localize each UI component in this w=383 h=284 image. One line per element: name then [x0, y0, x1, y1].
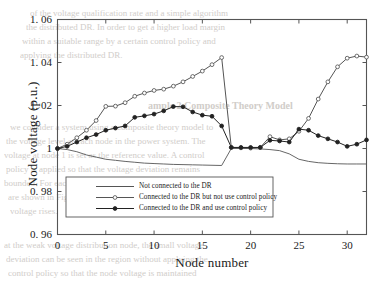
legend-label-2: Connected to the DR and use control poli… — [139, 204, 267, 212]
data-point — [278, 139, 282, 143]
data-point — [104, 104, 108, 108]
y-tick-label: 1. 04 — [8, 56, 52, 68]
data-point — [143, 114, 147, 118]
data-point — [258, 146, 262, 150]
x-tick-label: 10 — [134, 239, 174, 251]
data-point — [355, 142, 359, 146]
x-tick-label: 30 — [327, 239, 367, 251]
data-point — [75, 136, 79, 140]
data-point — [133, 115, 137, 119]
data-point — [220, 124, 224, 128]
data-point — [239, 146, 243, 150]
data-point — [307, 128, 311, 132]
data-point — [336, 140, 340, 144]
data-point — [200, 69, 204, 73]
data-point — [287, 140, 291, 144]
data-point — [365, 55, 369, 59]
data-point — [114, 126, 118, 130]
data-point — [65, 144, 69, 148]
data-point — [345, 56, 349, 60]
data-point — [143, 91, 147, 95]
data-point — [326, 80, 330, 84]
data-point — [345, 144, 349, 148]
data-point — [268, 138, 272, 142]
data-point — [220, 56, 224, 60]
data-point — [171, 84, 175, 88]
x-tick-label: 20 — [231, 239, 271, 251]
legend-label-0: Not connected to the DR — [139, 182, 212, 190]
figure-container: of the voltage qualification rate and a … — [0, 0, 383, 284]
data-point — [56, 147, 60, 151]
data-point — [162, 87, 166, 91]
series-1 — [56, 54, 369, 150]
data-point — [229, 146, 233, 150]
data-point — [210, 63, 214, 67]
x-tick-label: 0 — [38, 239, 78, 251]
data-point — [355, 54, 359, 58]
x-tick-label: 15 — [182, 239, 222, 251]
data-point — [336, 65, 340, 69]
data-point — [365, 138, 369, 142]
series-line — [58, 107, 367, 149]
data-point — [123, 101, 127, 105]
legend-label-1: Connected to the DR but not use control … — [139, 193, 277, 201]
legend-marker-2 — [113, 207, 117, 211]
data-point — [210, 114, 214, 118]
data-point — [326, 137, 330, 141]
data-point — [104, 128, 108, 132]
data-point — [307, 117, 311, 121]
y-tick-label: 1 — [8, 142, 52, 154]
data-point — [152, 112, 156, 116]
series-0 — [58, 149, 367, 166]
data-point — [316, 97, 320, 101]
data-point — [316, 134, 320, 138]
series-line — [58, 149, 367, 166]
data-point — [297, 127, 301, 131]
data-point — [162, 109, 166, 113]
data-point — [191, 110, 195, 114]
y-tick-label: 0. 98 — [8, 185, 52, 197]
data-point — [181, 105, 185, 109]
data-point — [85, 136, 89, 140]
legend-marker-1 — [113, 196, 117, 200]
data-point — [94, 119, 98, 123]
x-tick-label: 25 — [279, 239, 319, 251]
data-point — [171, 105, 175, 109]
data-point — [94, 133, 98, 137]
data-point — [75, 140, 79, 144]
data-point — [200, 113, 204, 117]
y-tick-label: 1. 06 — [8, 13, 52, 25]
y-tick-label: 1. 02 — [8, 99, 52, 111]
x-tick-label: 5 — [86, 239, 126, 251]
data-point — [152, 89, 156, 93]
data-point — [181, 80, 185, 84]
data-point — [191, 75, 195, 79]
x-axis-label: Node number — [57, 255, 367, 271]
data-point — [268, 135, 272, 139]
data-point — [133, 94, 137, 98]
data-point — [249, 146, 253, 150]
data-point — [123, 124, 127, 128]
data-point — [85, 128, 89, 132]
data-point — [114, 104, 118, 108]
